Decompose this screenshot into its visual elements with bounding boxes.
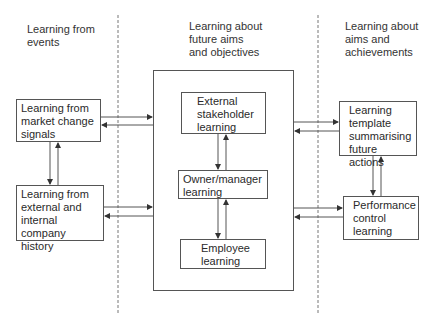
box-line: summarising [349, 130, 412, 143]
box-line: learning [197, 121, 261, 134]
box-line: learning [353, 225, 414, 238]
box-line: stakeholder [197, 108, 261, 121]
box-line: learning [183, 186, 263, 199]
box-employee-learning: Employee learning [180, 239, 266, 269]
box-market-change-signals: Learning from market change signals [16, 99, 101, 142]
box-owner-manager-learning: Owner/manager learning [178, 170, 268, 199]
box-line: internal company [21, 214, 99, 240]
heading-line: aims and [345, 33, 418, 46]
heading-line: and objectives [189, 46, 262, 59]
box-line: Owner/manager [183, 173, 263, 186]
box-line: Performance [353, 199, 414, 212]
box-performance-control-learning: Performance control learning [343, 196, 419, 240]
box-line: control [353, 212, 414, 225]
heading-learning-about-aims-achievements: Learning about aims and achievements [345, 20, 418, 59]
box-line: learning [201, 255, 261, 268]
heading-line: future aims [189, 33, 262, 46]
box-line: External [197, 95, 261, 108]
box-line: Learning from [21, 102, 96, 115]
box-line: history [21, 240, 99, 253]
box-learning-template: Learning template summarising future act… [339, 101, 417, 156]
box-external-stakeholder-learning: External stakeholder learning [181, 92, 266, 134]
heading-line: Learning about [189, 20, 262, 33]
box-line: Employee [201, 242, 261, 255]
box-company-history: Learning from external and internal comp… [16, 185, 104, 241]
heading-learning-about-future-aims: Learning about future aims and objective… [189, 20, 262, 59]
box-line: signals [21, 128, 96, 141]
box-line: market change [21, 115, 96, 128]
box-line: template [349, 117, 412, 130]
heading-line: Learning about [345, 20, 418, 33]
box-line: external and [21, 201, 99, 214]
box-line: Learning [349, 104, 412, 117]
heading-line: events [27, 36, 95, 49]
box-line: Learning from [21, 188, 99, 201]
heading-line: Learning from [27, 23, 95, 36]
heading-line: achievements [345, 46, 418, 59]
box-line: future actions [349, 143, 412, 169]
heading-learning-from-events: Learning from events [27, 23, 95, 49]
